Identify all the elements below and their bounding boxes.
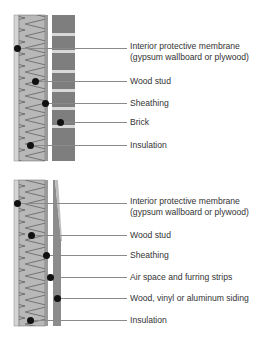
label-sheathing-top: Sheathing (130, 98, 169, 109)
brick-layer (52, 15, 75, 161)
leader-line (45, 103, 127, 104)
leader-line (60, 122, 127, 123)
brick-wall-section (14, 15, 75, 161)
label-wood-stud-top: Wood stud (130, 76, 171, 87)
callout-dot (14, 45, 21, 52)
insulation-layer (19, 15, 45, 161)
leader-line (31, 235, 127, 236)
callout-dot (43, 252, 50, 259)
label-interior-membrane-top: Interior protective membrane (gypsum wal… (130, 41, 249, 62)
callout-dot (47, 274, 54, 281)
label-insulation-top: Insulation (130, 140, 167, 151)
label-air-space: Air space and furring strips (130, 272, 232, 283)
leader-line (50, 277, 127, 278)
label-brick: Brick (130, 117, 149, 128)
label-sheathing-bottom: Sheathing (130, 250, 169, 261)
siding-wall-section (14, 180, 62, 326)
gypsum-layer (14, 15, 19, 161)
label-interior-membrane-bottom: Interior protective membrane (gypsum wal… (130, 196, 249, 217)
callout-dot (42, 100, 49, 107)
callout-dot (54, 295, 61, 302)
callout-dot (27, 317, 34, 324)
label-siding: Wood, vinyl or aluminum siding (130, 293, 249, 304)
leader-line (30, 145, 127, 146)
leader-line (46, 255, 127, 256)
leader-line (57, 298, 127, 299)
leader-line (35, 81, 127, 82)
label-wood-stud-bottom: Wood stud (130, 230, 171, 241)
callout-dot (32, 78, 39, 85)
insulation-layer (19, 180, 45, 326)
leader-line (17, 48, 127, 49)
callout-dot (14, 200, 21, 207)
callout-dot (27, 142, 34, 149)
callout-dot (57, 119, 64, 126)
siding-layer (53, 180, 61, 326)
callout-dot (28, 232, 35, 239)
leader-line (30, 320, 127, 321)
label-insulation-bottom: Insulation (130, 315, 167, 326)
sheathing-layer (45, 15, 48, 161)
leader-line (17, 203, 127, 204)
